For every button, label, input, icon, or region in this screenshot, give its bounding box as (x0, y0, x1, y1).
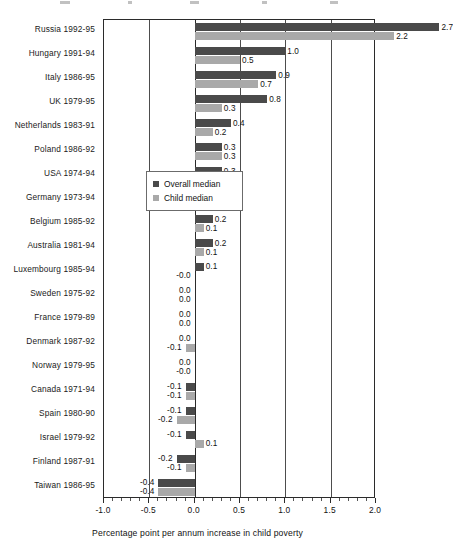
bar-value-label: 0.3 (224, 144, 236, 152)
bar-value-label: -0.1 (167, 344, 182, 352)
category-label: UK 1979-95 (0, 97, 95, 106)
x-tick-minor (275, 498, 276, 501)
bar-value-label: 0.1 (206, 249, 218, 257)
x-tick-minor (166, 498, 167, 501)
bar-value-label: 0.3 (224, 105, 236, 113)
x-tick-minor (321, 498, 322, 501)
x-tick-label: -0.5 (131, 505, 165, 515)
x-tick-major (330, 498, 331, 503)
bar-overall (195, 71, 277, 79)
bar-overall (195, 263, 204, 271)
bar-overall (186, 431, 195, 439)
category-label: Finland 1987-91 (0, 457, 95, 466)
x-tick-minor (176, 498, 177, 501)
x-tick-minor (185, 498, 186, 501)
bar-value-label: -0.1 (167, 464, 182, 472)
category-label: Luxembourg 1985-94 (0, 265, 95, 274)
bar-child (186, 464, 195, 472)
legend-entry-overall-median: Overall median (153, 177, 236, 191)
bar-child (195, 224, 204, 232)
bar-overall (158, 479, 194, 487)
x-tick-minor (248, 498, 249, 501)
bar-value-label: 0.1 (206, 440, 218, 448)
x-tick-minor (157, 498, 158, 501)
plot-area: 2.72.21.00.50.90.70.80.30.40.20.30.30.30… (103, 19, 375, 498)
bar-value-label: 0.8 (269, 96, 281, 104)
category-label: France 1979-89 (0, 313, 95, 322)
x-tick-minor (357, 498, 358, 501)
category-label: Canada 1971-94 (0, 385, 95, 394)
x-tick-minor (266, 498, 267, 501)
x-tick-label: -1.0 (86, 505, 120, 515)
category-label: Poland 1986-92 (0, 145, 95, 154)
bar-value-label: 1.0 (287, 48, 299, 56)
bar-value-label: 0.5 (242, 57, 254, 65)
bar-child (186, 392, 195, 400)
bar-child (195, 248, 204, 256)
zero-line (195, 20, 196, 497)
bar-overall (195, 95, 268, 103)
legend-swatch-icon-overall (153, 181, 159, 187)
bar-value-label: 0.2 (215, 240, 227, 248)
category-label: Sweden 1975-92 (0, 289, 95, 298)
bar-child (186, 344, 195, 352)
bar-value-label: 0.0 (179, 311, 191, 319)
bar-value-label: -0.1 (167, 392, 182, 400)
x-tick-label: 0.0 (177, 505, 211, 515)
bar-child (195, 440, 204, 448)
bar-value-label: 0.3 (224, 153, 236, 161)
bar-value-label: 0.1 (206, 225, 218, 233)
x-tick-minor (366, 498, 367, 501)
bar-value-label: -0.1 (167, 431, 182, 439)
x-tick-minor (139, 498, 140, 501)
x-tick-minor (121, 498, 122, 501)
gridline (331, 20, 332, 497)
bar-child (195, 56, 240, 64)
bar-value-label: 2.2 (396, 33, 408, 41)
bar-value-label: 0.0 (179, 359, 191, 367)
gridline (149, 20, 150, 497)
category-label: Russia 1992-95 (0, 25, 95, 34)
bar-value-label: 0.0 (179, 287, 191, 295)
bar-overall (195, 119, 231, 127)
category-label: Spain 1980-90 (0, 409, 95, 418)
x-tick-minor (230, 498, 231, 501)
category-label: Israel 1979-92 (0, 433, 95, 442)
x-axis-tick-labels: -1.0-0.50.00.51.01.52.0 (0, 505, 395, 519)
x-tick-major (148, 498, 149, 503)
legend-swatch-icon-child (153, 195, 159, 201)
bar-overall (186, 383, 195, 391)
bar-child (158, 488, 194, 496)
bar-overall (195, 215, 213, 223)
category-label: Belgium 1985-92 (0, 217, 95, 226)
bar-value-label: -0.1 (167, 383, 182, 391)
category-label: Taiwan 1986-95 (0, 481, 95, 490)
x-tick-minor (339, 498, 340, 501)
bar-value-label: -0.4 (140, 479, 155, 487)
bar-overall (177, 455, 195, 463)
x-axis-ticks (103, 498, 375, 504)
x-tick-label: 0.5 (222, 505, 256, 515)
chart-legend: Overall median Child median (146, 171, 243, 211)
scan-artifact-mark (190, 1, 199, 4)
x-tick-major (194, 498, 195, 503)
category-axis-labels: Russia 1992-95Hungary 1991-94Italy 1986-… (0, 18, 99, 498)
category-label: USA 1974-94 (0, 169, 95, 178)
legend-entry-child-median: Child median (153, 191, 236, 205)
category-label: Australia 1981-94 (0, 241, 95, 250)
bar-overall (195, 47, 286, 55)
bar-child (195, 32, 394, 40)
bar-overall (195, 23, 440, 31)
bar-value-label: -0.4 (140, 488, 155, 496)
scan-artifact-mark (128, 1, 132, 4)
category-label: Netherlands 1983-91 (0, 121, 95, 130)
bar-value-label: -0.2 (158, 416, 173, 424)
x-tick-minor (221, 498, 222, 501)
category-label: Denmark 1987-92 (0, 337, 95, 346)
x-tick-label: 2.0 (358, 505, 392, 515)
bar-child (195, 104, 222, 112)
category-label: Italy 1986-95 (0, 73, 95, 82)
scan-artifact-mark (262, 1, 267, 4)
bar-value-label: -0.2 (158, 455, 173, 463)
